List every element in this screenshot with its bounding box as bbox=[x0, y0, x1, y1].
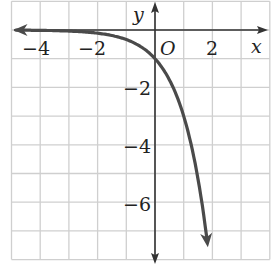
origin-label: O bbox=[160, 37, 176, 59]
y-axis-label: y bbox=[132, 3, 144, 25]
x-tick-label: −2 bbox=[78, 37, 106, 59]
y-tick-label: −2 bbox=[123, 77, 151, 99]
graph: −4 −2 2 O x y −2 −4 −6 bbox=[0, 0, 271, 268]
axes bbox=[14, 2, 268, 264]
y-tick-label: −6 bbox=[123, 193, 151, 215]
grid bbox=[12, 1, 270, 259]
x-axis-label: x bbox=[251, 35, 262, 57]
exponential-curve bbox=[16, 30, 207, 237]
y-tick-label: −4 bbox=[123, 135, 151, 157]
x-tick-label: −4 bbox=[22, 37, 50, 59]
x-tick-label: 2 bbox=[206, 37, 218, 59]
